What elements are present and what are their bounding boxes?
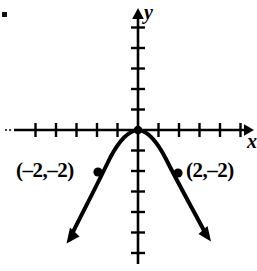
x-axis-label: x: [247, 131, 257, 151]
parabola-figure: (–2,–2) (2,–2) y x: [0, 0, 257, 271]
point-label-right: (2,–2): [186, 160, 234, 181]
y-axis: [132, 8, 144, 264]
point-dot-left: [93, 167, 102, 176]
y-axis-label: y: [144, 2, 153, 22]
y-axis-arrowhead: [132, 8, 144, 19]
coordinate-plot: [0, 0, 257, 271]
point-dot-vertex: [134, 126, 142, 134]
point-label-left: (–2,–2): [16, 160, 74, 181]
point-dot-right: [173, 168, 182, 177]
